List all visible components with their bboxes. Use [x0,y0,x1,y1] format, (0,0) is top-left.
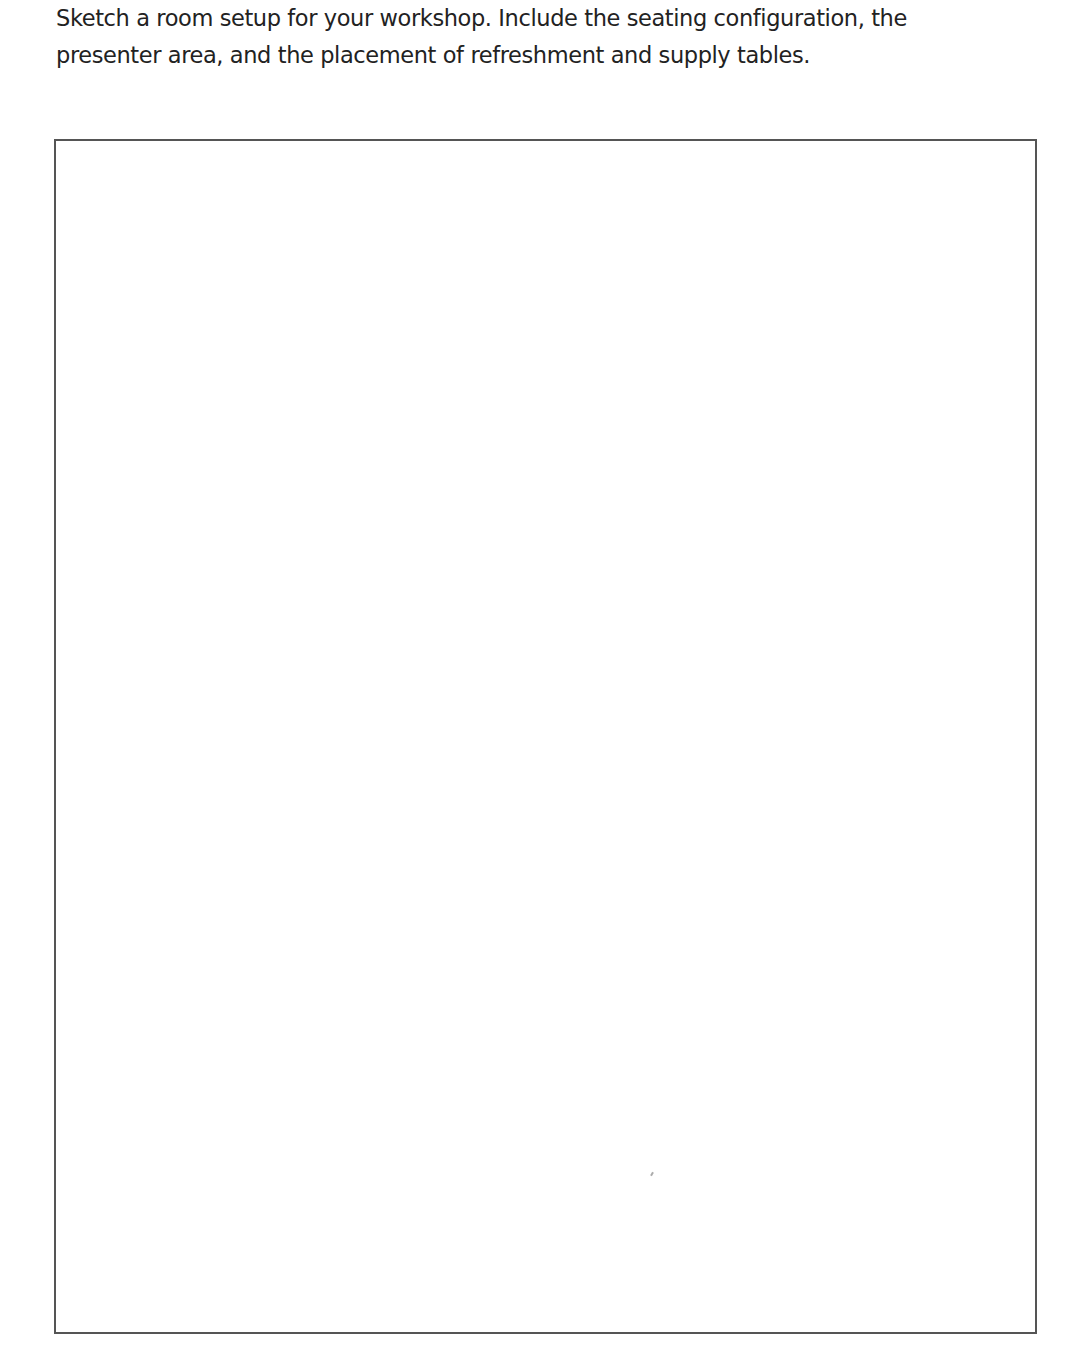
instruction-line-2: presenter area, and the placement of ref… [56,37,1056,74]
instruction-text: Sketch a room setup for your workshop. I… [56,0,1056,74]
sketch-drawing-area[interactable] [54,139,1037,1334]
instruction-line-1: Sketch a room setup for your workshop. I… [56,0,1056,37]
